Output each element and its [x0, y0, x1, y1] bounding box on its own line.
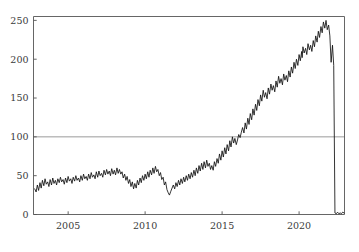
line-chart: 050100150200250 2005201020152020 — [0, 0, 359, 252]
y-tick-label: 200 — [10, 54, 28, 65]
y-tick-label: 100 — [10, 131, 28, 142]
chart-container: 050100150200250 2005201020152020 — [0, 0, 359, 252]
x-tick-label: 2020 — [287, 220, 311, 231]
x-tick-label: 2005 — [56, 220, 80, 231]
y-tick-label: 50 — [16, 170, 28, 181]
y-tick-label: 150 — [10, 92, 28, 103]
y-tick-label: 250 — [10, 15, 28, 26]
x-tick-label: 2015 — [210, 220, 234, 231]
x-tick-label: 2010 — [133, 220, 157, 231]
y-tick-label: 0 — [22, 209, 28, 220]
